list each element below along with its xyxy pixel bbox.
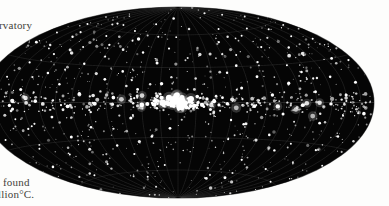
source-marker — [238, 40, 240, 42]
source-marker — [306, 109, 307, 110]
source-marker — [292, 161, 294, 163]
source-marker — [155, 84, 156, 85]
source-marker — [6, 76, 8, 78]
source-marker — [132, 77, 134, 79]
source-marker — [1, 106, 2, 107]
source-marker — [256, 75, 259, 78]
source-marker — [119, 193, 121, 195]
source-marker — [300, 71, 303, 74]
source-marker — [299, 93, 300, 94]
source-marker — [290, 143, 292, 145]
source-marker — [342, 115, 344, 117]
source-marker — [269, 47, 270, 48]
source-marker — [56, 32, 58, 34]
source-marker — [170, 118, 171, 119]
source-marker — [240, 51, 241, 52]
source-marker — [226, 36, 228, 38]
source-marker — [11, 108, 14, 111]
source-marker — [149, 194, 151, 196]
source-marker — [335, 62, 338, 65]
source-marker — [24, 111, 26, 113]
source-marker — [47, 139, 50, 142]
source-marker — [16, 130, 17, 131]
source-marker — [137, 102, 139, 104]
source-marker — [65, 162, 66, 163]
source-marker — [105, 93, 109, 97]
source-marker — [162, 32, 163, 33]
source-marker — [229, 192, 231, 194]
source-marker — [255, 104, 257, 106]
source-marker — [242, 133, 243, 134]
source-marker — [241, 156, 243, 158]
source-marker — [353, 105, 355, 107]
source-marker — [207, 167, 209, 169]
source-marker — [96, 169, 97, 170]
source-marker — [228, 137, 230, 139]
source-marker — [140, 34, 141, 35]
source-marker — [253, 140, 254, 141]
source-marker — [335, 99, 337, 101]
source-marker — [45, 127, 46, 128]
source-marker — [246, 169, 247, 170]
source-marker — [2, 100, 4, 102]
source-marker — [86, 174, 87, 175]
source-marker — [329, 102, 332, 105]
source-marker — [69, 98, 70, 99]
source-marker — [80, 76, 81, 77]
source-marker — [237, 88, 238, 89]
source-marker — [258, 177, 259, 178]
source-marker — [66, 78, 67, 79]
source-marker — [69, 48, 72, 51]
source-marker — [40, 43, 41, 44]
source-marker — [256, 61, 258, 63]
source-marker — [65, 70, 66, 71]
source-marker — [58, 83, 60, 85]
source-marker — [62, 108, 65, 111]
source-marker — [105, 153, 107, 155]
source-marker — [241, 159, 243, 161]
source-marker — [311, 99, 313, 101]
source-marker — [263, 166, 264, 167]
source-marker — [151, 134, 153, 136]
source-marker — [46, 41, 47, 42]
source-marker — [215, 147, 216, 148]
source-marker — [155, 186, 157, 188]
source-marker — [209, 71, 211, 73]
source-marker — [328, 51, 329, 52]
source-marker — [111, 23, 113, 25]
source-marker — [271, 93, 274, 96]
source-marker — [343, 103, 346, 106]
source-marker — [17, 103, 19, 105]
source-marker — [175, 142, 177, 144]
source-marker — [15, 101, 16, 102]
source-marker — [209, 186, 213, 190]
source-marker — [258, 65, 260, 67]
source-marker — [133, 174, 134, 175]
source-marker — [14, 69, 16, 71]
source-marker — [29, 40, 30, 41]
source-marker — [159, 110, 160, 111]
source-marker — [93, 33, 94, 34]
source-marker — [215, 97, 217, 99]
source-marker — [241, 104, 243, 106]
source-marker — [52, 107, 54, 109]
source-marker — [151, 47, 152, 48]
source-marker — [264, 49, 265, 50]
source-marker — [70, 51, 73, 54]
source-marker — [320, 84, 321, 85]
source-marker — [338, 110, 339, 111]
source-marker — [72, 99, 75, 102]
source-marker — [295, 125, 297, 127]
source-marker — [77, 135, 79, 137]
source-marker — [8, 79, 9, 80]
source-marker — [236, 17, 237, 18]
source-marker — [146, 171, 147, 172]
source-marker — [11, 91, 14, 94]
source-marker — [313, 138, 314, 139]
source-marker — [270, 21, 271, 22]
source-marker — [281, 96, 283, 98]
source-marker — [56, 164, 57, 165]
source-marker — [25, 53, 26, 54]
source-marker — [324, 150, 325, 151]
source-marker — [89, 106, 91, 108]
